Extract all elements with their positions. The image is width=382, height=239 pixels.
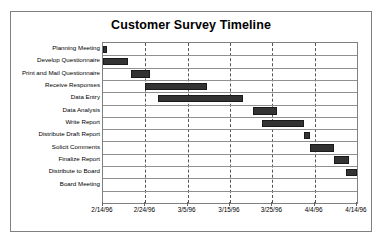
- category-label: Develop Questionnaire: [12, 56, 100, 64]
- gantt-bar[interactable]: [253, 107, 276, 114]
- gridline-horizontal: [103, 105, 357, 106]
- gantt-bar[interactable]: [145, 83, 206, 90]
- category-label: Solicit Comments: [12, 143, 100, 151]
- chart-frame: Customer Survey Timeline Planning Meetin…: [10, 11, 372, 232]
- category-label: Distribute Draft Report: [12, 130, 100, 138]
- gridline-horizontal: [103, 129, 357, 130]
- gridline-horizontal: [103, 92, 357, 93]
- x-axis-tick-label: 4/4/96: [305, 206, 323, 213]
- category-label: Data Analysis: [12, 106, 100, 114]
- x-axis-tick-mark: [356, 202, 357, 206]
- category-label: Planning Meeting: [12, 44, 100, 52]
- category-label: Write Report: [12, 118, 100, 126]
- gridline-horizontal: [103, 117, 357, 118]
- x-axis-tick-mark: [187, 202, 188, 206]
- gantt-bar[interactable]: [346, 169, 357, 176]
- gantt-bar[interactable]: [131, 70, 150, 77]
- gridline-horizontal: [103, 166, 357, 167]
- gantt-bar[interactable]: [310, 144, 333, 151]
- x-axis-tick-label: 2/24/96: [134, 206, 155, 213]
- category-label: Data Entry: [12, 93, 100, 101]
- x-axis-tick-mark: [229, 202, 230, 206]
- gantt-bar[interactable]: [304, 132, 310, 139]
- x-axis-tick-label: 3/15/96: [218, 206, 239, 213]
- category-label: Print and Mail Questionnaire: [12, 69, 100, 77]
- x-axis-tick-label: 4/14/96: [345, 206, 366, 213]
- gridline-horizontal: [103, 191, 357, 192]
- gantt-bar[interactable]: [262, 120, 304, 127]
- gridline-horizontal: [103, 68, 357, 69]
- gantt-bar[interactable]: [158, 95, 243, 102]
- gridline-horizontal: [103, 178, 357, 179]
- x-axis-tick-label: 2/14/96: [91, 206, 112, 213]
- x-axis-tick-mark: [271, 202, 272, 206]
- x-axis-tick-mark: [102, 202, 103, 206]
- category-label: Board Meeting: [12, 180, 100, 188]
- gridline-horizontal: [103, 55, 357, 56]
- gridline-horizontal: [103, 154, 357, 155]
- x-axis-tick-label: 3/25/96: [261, 206, 282, 213]
- gridline-horizontal: [103, 80, 357, 81]
- category-label: Distribute to Board: [12, 167, 100, 175]
- x-axis-tick-mark: [144, 202, 145, 206]
- chart-title: Customer Survey Timeline: [11, 18, 371, 32]
- gridline-horizontal: [103, 141, 357, 142]
- x-axis-tick-mark: [314, 202, 315, 206]
- gantt-bar[interactable]: [334, 156, 349, 163]
- category-label: Receive Responses: [12, 81, 100, 89]
- x-axis-tick-labels: 2/14/962/24/963/5/963/15/963/25/964/4/96…: [11, 206, 371, 220]
- category-label: Finalize Report: [12, 155, 100, 163]
- gantt-bar[interactable]: [103, 58, 128, 65]
- category-axis: Planning MeetingDevelop QuestionnairePri…: [11, 42, 100, 202]
- plot-area: [102, 42, 358, 204]
- gantt-bar[interactable]: [103, 46, 107, 53]
- x-axis-tick-label: 3/5/96: [178, 206, 196, 213]
